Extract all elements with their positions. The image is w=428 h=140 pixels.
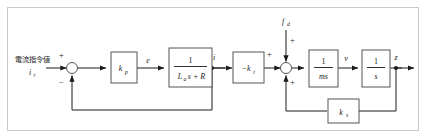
block-mass-denominator: ms [319,72,328,81]
sign-sum2-bottom-plus: + [290,77,295,87]
sign-sum1-plus: + [59,50,64,60]
block-integrator-numerator: 1 [374,57,378,66]
block-spring-sub: s [346,112,348,118]
signal-label-error: e [146,56,150,65]
block-plant-den-rest: s + R [188,72,206,81]
block-spring[interactable] [328,99,359,123]
sign-sum2-top-plus: + [290,35,295,45]
signal-label-current: i [213,53,215,62]
block-kp[interactable] [111,52,137,83]
signal-label-velocity: v [344,54,348,63]
block-plant[interactable] [169,48,212,87]
block-plant-den-L-sub: a [184,76,187,82]
block-diagram-svg: k p 1 L a s + R −k t 1 ms 1 s k s 電流指令値 … [0,0,428,140]
input-label-subscript: r [34,72,37,78]
block-torque-base: −k [242,64,251,73]
block-diagram-canvas: k p 1 L a s + R −k t 1 ms 1 s k s 電流指令値 … [0,0,428,140]
block-integrator-denominator: s [374,72,377,81]
block-kp-sub: p [124,69,128,75]
block-mass[interactable] [309,50,338,87]
block-spring-base: k [339,108,343,117]
input-label-japanese: 電流指令値 [15,55,50,64]
block-kp-base: k [119,64,123,73]
signal-label-disturbance-sub: d [287,21,290,27]
summing-junction-input[interactable] [67,63,78,74]
block-plant-den-L: L [177,72,183,81]
sign-sum1-minus: − [59,77,64,87]
block-mass-numerator: 1 [322,57,326,66]
signal-label-disturbance-base: f [282,17,286,26]
summing-junction-force[interactable] [281,63,292,74]
signal-label-position: z [393,53,398,62]
block-plant-numerator: 1 [189,56,193,65]
sign-sum2-left-plus: + [267,49,272,59]
input-label-variable: i [29,68,31,77]
block-integrator[interactable] [362,50,390,87]
